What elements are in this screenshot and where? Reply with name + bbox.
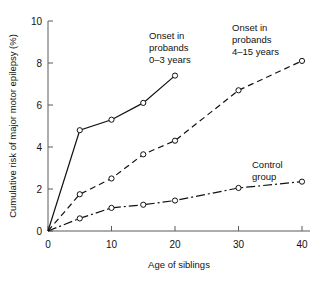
data-point-marker [299,179,304,184]
annot-onset-0-3-line-1: Onset in [149,30,184,41]
data-point-marker [77,216,82,221]
series-2 [48,58,305,231]
data-point-marker [236,185,241,190]
data-point-marker [236,88,241,93]
data-point-marker [141,100,146,105]
data-point-marker [141,152,146,157]
series-line-2 [48,61,302,231]
x-tick-label: 40 [296,239,308,250]
data-point-marker [77,128,82,133]
chart-figure: 0246810 010203040 Onset inprobands0–3 ye… [0,0,322,287]
data-point-marker [141,202,146,207]
x-tick-label: 20 [169,239,181,250]
annot-onset-0-3: Onset inprobands0–3 years [149,30,191,65]
x-axis-title: Age of siblings [148,259,210,270]
annot-onset-0-3-line-2: probands [149,42,189,53]
y-axis-ticks: 0246810 [31,16,53,237]
annot-onset-4-15: Onset inprobands4–15 years [232,22,279,57]
x-tick-label: 0 [45,239,51,250]
x-axis-ticks: 010203040 [45,226,308,250]
annot-control: Controlgroup [252,159,283,182]
annot-onset-4-15-line-3: 4–15 years [232,46,279,57]
y-tick-label: 4 [36,142,42,153]
x-tick-label: 30 [233,239,245,250]
annot-control-line-1: Control [252,159,283,170]
data-point-marker [172,198,177,203]
data-point-marker [109,176,114,181]
epilepsy-cumulative-risk-chart: 0246810 010203040 Onset inprobands0–3 ye… [0,0,322,287]
data-series-group [48,58,305,231]
series-3 [48,179,305,231]
y-tick-label: 10 [31,16,43,27]
y-tick-label: 6 [36,100,42,111]
y-tick-label: 8 [36,58,42,69]
annot-onset-4-15-line-1: Onset in [232,22,267,33]
data-point-marker [109,117,114,122]
data-point-marker [299,58,304,63]
x-tick-label: 10 [106,239,118,250]
data-point-marker [109,205,114,210]
y-tick-label: 0 [36,226,42,237]
series-line-3 [48,182,302,231]
data-point-marker [172,138,177,143]
chart-annotations: Onset inprobands0–3 yearsOnset inproband… [149,22,283,182]
data-point-marker [77,192,82,197]
annot-onset-0-3-line-3: 0–3 years [149,54,191,65]
y-axis-title: Cumulative risk of major motor epilepsy … [7,34,18,218]
y-tick-label: 2 [36,184,42,195]
data-point-marker [172,73,177,78]
annot-onset-4-15-line-2: probands [232,34,272,45]
annot-control-line-2: group [252,171,276,182]
